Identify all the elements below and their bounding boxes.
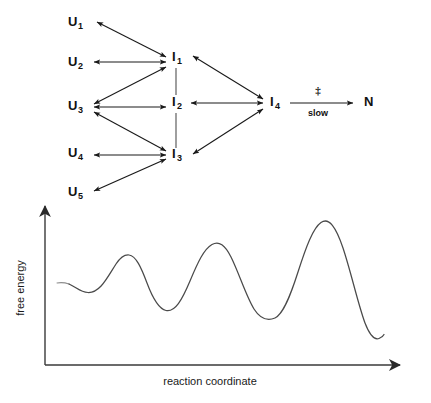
state-label-i4-sub: 4 (275, 101, 280, 111)
state-label-u2: U 2 (68, 54, 83, 71)
state-label-u2-base: U (68, 54, 77, 69)
arrow-u3-i1 (94, 67, 166, 104)
y-axis-title: free energy (14, 260, 26, 316)
state-label-i4: I 4 (270, 94, 280, 111)
state-label-u4-base: U (68, 145, 77, 160)
state-label-i4-base: I (270, 94, 274, 109)
state-label-u4-sub: 4 (78, 152, 83, 162)
transition-state-symbol: ‡ (315, 84, 321, 96)
state-label-i2-base: I (172, 94, 176, 109)
protein-folding-figure: U 1 U 2 U 3 U 4 U 5 I 1 I 2 I (0, 0, 431, 403)
state-label-i1-base: I (172, 49, 176, 64)
state-label-u1-base: U (68, 14, 77, 29)
free-energy-plot: reaction coordinate free energy (14, 206, 400, 387)
state-label-i3: I 3 (172, 146, 182, 163)
arrow-u3-i3 (94, 112, 166, 151)
u-to-i-arrows (94, 22, 166, 191)
state-label-u3: U 3 (68, 98, 83, 115)
state-label-u3-base: U (68, 98, 77, 113)
state-label-i2-sub: 2 (177, 101, 182, 111)
state-label-n-base: N (364, 94, 373, 109)
state-label-i1: I 1 (172, 49, 182, 66)
state-label-u5-sub: 5 (78, 191, 83, 201)
state-label-i3-sub: 3 (177, 153, 182, 163)
state-label-i2: I 2 (172, 94, 182, 111)
intermediate-state-labels: I 1 I 2 I 3 I 4 (172, 49, 280, 163)
unfolded-state-labels: U 1 U 2 U 3 U 4 U 5 (68, 14, 83, 201)
state-label-i1-sub: 1 (177, 56, 182, 66)
rate-step-label: slow (308, 108, 329, 118)
state-label-n: N (364, 94, 373, 109)
rate-limiting-step: ‡ slow (290, 84, 353, 118)
state-label-u1-sub: 1 (78, 21, 83, 31)
arrow-u5-i3 (94, 159, 166, 191)
energy-curve (69, 221, 384, 339)
arrow-i3-i4 (193, 109, 263, 154)
arrow-u1-i1 (97, 22, 166, 57)
state-label-u2-sub: 2 (78, 61, 83, 71)
state-label-u4: U 4 (68, 145, 83, 162)
i-to-i4-arrows (191, 56, 263, 154)
state-label-u3-sub: 3 (78, 105, 83, 115)
state-label-u5-base: U (68, 184, 77, 199)
state-label-u1: U 1 (68, 14, 83, 31)
x-axis-title: reaction coordinate (163, 375, 257, 387)
arrow-i1-i4 (193, 56, 263, 99)
state-label-i3-base: I (172, 146, 176, 161)
energy-curve-start-segment (57, 283, 69, 284)
state-label-u5: U 5 (68, 184, 83, 201)
